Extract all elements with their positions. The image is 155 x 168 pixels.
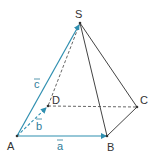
vertex-label-C: C	[140, 94, 148, 106]
vertex-D-dot	[47, 105, 50, 108]
vertex-label-A: A	[7, 140, 15, 152]
vector-label-a: a	[57, 140, 64, 152]
vector-label-b: b	[36, 120, 42, 132]
vertex-B-dot	[106, 135, 109, 138]
edge-SB	[80, 23, 107, 136]
pyramid-diagram: S A B C D a b c	[0, 0, 155, 168]
vector-label-c: c	[34, 78, 40, 90]
vector-c	[17, 25, 79, 136]
vertex-label-S: S	[75, 8, 82, 20]
edge-BC	[107, 107, 137, 136]
vertex-label-B: B	[107, 141, 114, 153]
edge-DC	[48, 106, 137, 107]
vertex-label-D: D	[52, 94, 60, 106]
vertex-S-dot	[79, 22, 82, 25]
edge-SC	[80, 23, 137, 107]
vertex-C-dot	[136, 106, 139, 109]
vertex-A-dot	[16, 135, 19, 138]
